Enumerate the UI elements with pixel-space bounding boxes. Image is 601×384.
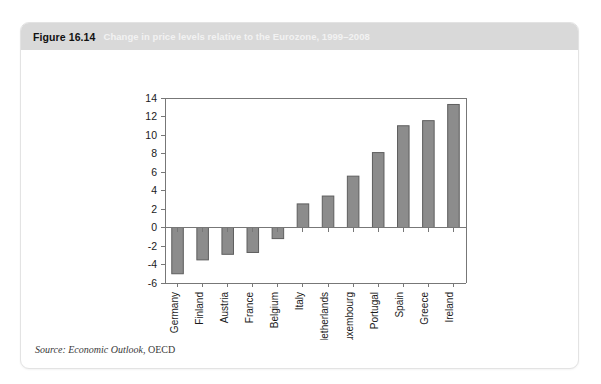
category-label: Portugal: [369, 292, 380, 329]
category-label: Netherlands: [319, 292, 330, 340]
source-publication: Source: Economic Outlook,: [35, 344, 145, 355]
category-label: Luxembourg: [344, 292, 355, 340]
category-label: Spain: [394, 292, 405, 318]
bar: [172, 228, 184, 274]
y-tick-label: 6: [151, 166, 157, 178]
bars-group: [172, 104, 459, 273]
bar: [297, 204, 309, 228]
figure-card: Figure 16.14 Change in price levels rela…: [20, 22, 579, 369]
category-label: Italy: [294, 292, 305, 310]
y-tick-label: 4: [151, 184, 157, 196]
bar: [222, 228, 234, 255]
figure-header: Figure 16.14 Change in price levels rela…: [21, 23, 578, 50]
y-axis-tick-group: -6-4-202468101214: [145, 92, 165, 289]
chart-plot-area: -6-4-202468101214 GermanyFinlandAustriaF…: [21, 50, 578, 340]
y-tick-label: 10: [145, 129, 157, 141]
category-label: Austria: [219, 292, 230, 324]
x-axis-tick-group: [178, 228, 454, 288]
source-note: Source: Economic Outlook, OECD: [35, 344, 175, 355]
y-tick-label: -4: [148, 258, 157, 270]
figure-number-label: Figure 16.14: [33, 31, 95, 43]
bar: [322, 196, 334, 227]
bar: [448, 104, 460, 227]
y-tick-label: -6: [148, 277, 157, 289]
y-tick-label: 2: [151, 203, 157, 215]
y-tick-label: 8: [151, 147, 157, 159]
bar: [398, 126, 410, 228]
category-label: Finland: [194, 292, 205, 325]
figure-caption-label: Change in price levels relative to the E…: [103, 31, 369, 42]
category-label-group: GermanyFinlandAustriaFranceBelgiumItalyN…: [169, 292, 456, 340]
axes-group: [165, 98, 466, 283]
bar: [423, 121, 435, 228]
category-label: Belgium: [269, 292, 280, 328]
bar: [347, 176, 359, 227]
category-label: France: [244, 292, 255, 324]
category-label: Germany: [169, 292, 180, 333]
bar: [197, 228, 209, 260]
y-tick-label: 0: [151, 221, 157, 233]
bar: [372, 153, 384, 228]
y-tick-label: -2: [148, 240, 157, 252]
bar-chart-svg: -6-4-202468101214 GermanyFinlandAustriaF…: [21, 50, 580, 340]
category-label: Ireland: [444, 292, 455, 323]
category-label: Greece: [419, 292, 430, 325]
source-organization: OECD: [148, 344, 175, 355]
y-tick-label: 14: [145, 92, 157, 104]
y-tick-label: 12: [145, 110, 157, 122]
